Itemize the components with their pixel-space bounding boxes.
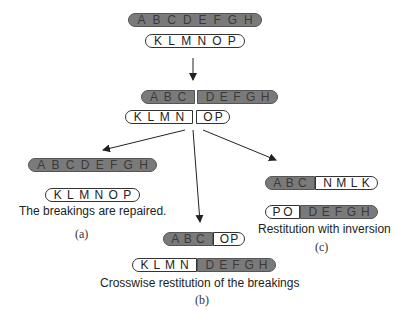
arrow-to-b-icon [193,130,200,222]
gene: A [171,233,179,245]
gene: K [54,189,62,201]
gene: G [246,91,255,103]
initial-chromosome-2: KLMNOP [145,34,245,48]
gene: K [154,35,162,47]
segment-klmn: KLMN [132,258,197,272]
gene: L [153,259,160,271]
gene: F [110,159,117,171]
segment-op: OP [213,232,245,246]
segment-defgh: DEFGH [197,90,278,104]
gene: B [184,233,192,245]
gene: E [322,206,330,218]
gene: G [347,206,356,218]
gene: P [228,35,236,47]
gene: H [261,91,270,103]
gene: B [164,91,172,103]
segment-po: PO [265,205,300,219]
gene: E [220,91,228,103]
gene: B [286,177,294,189]
segment-defgh: DEFGH [197,258,276,272]
gene: O [109,189,118,201]
gene: A [150,91,158,103]
outcome-a-chromosome-1: ABCDEFGH [28,158,157,172]
segment-abcdefgh: ABCDEFGH [128,13,262,27]
broken-chromosome-1: ABC DEFGH [141,90,278,104]
gene: H [139,159,148,171]
gene: K [140,259,148,271]
gene: P [123,189,131,201]
gene: G [228,14,237,26]
outcome-a-chromosome-2: KLMNOP [45,188,140,202]
outcome-c-chromosome-1: ABC NMLK [265,176,378,190]
gene: O [203,111,212,123]
arrow-to-a-icon [103,130,185,150]
gene: F [213,14,220,26]
arrow-to-c-icon [203,130,276,160]
gene: O [212,35,221,47]
gene: L [67,189,74,201]
gene: M [336,177,346,189]
gene: F [335,206,342,218]
outcome-b-label: (b) [195,293,209,308]
gene: O [283,206,292,218]
gene: C [196,233,205,245]
gene: D [205,259,214,271]
gene: P [272,206,280,218]
gene: D [308,206,317,218]
broken-chromosome-2: KLMN OP [125,110,230,124]
gene: D [183,14,192,26]
gene: F [232,259,239,271]
gene: D [81,159,90,171]
gene: P [215,111,223,123]
gene: O [220,233,229,245]
outcome-a-caption: The breakings are repaired. [19,204,166,218]
segment-klmnop: KLMNOP [45,188,140,202]
gene: B [51,159,59,171]
outcome-b-caption: Crosswise restitution of the breakings [100,276,299,290]
gene: H [244,14,253,26]
segment-klmn: KLMN [125,110,193,124]
gene: A [137,14,145,26]
gene: E [96,159,104,171]
gene: C [177,91,186,103]
segment-abcdefgh: ABCDEFGH [28,158,157,172]
gene: M [165,259,175,271]
gene: A [37,159,45,171]
gene: G [244,259,253,271]
segment-op: OP [196,110,230,124]
segment-nmlk: NMLK [315,176,378,190]
segment-defgh: DEFGH [300,205,378,219]
gene: L [148,111,155,123]
outcome-b-chromosome-1: ABC OP [163,232,245,246]
gene: C [167,14,176,26]
gene: E [219,259,227,271]
gene: L [168,35,175,47]
outcome-c-label: (c) [315,240,328,255]
gene: E [198,14,206,26]
gene: B [152,14,160,26]
initial-chromosome-1: ABCDEFGH [128,13,262,27]
gene: G [124,159,133,171]
segment-klmnop: KLMNOP [145,34,245,48]
gene: M [79,189,89,201]
gene: P [230,233,238,245]
outcome-c-chromosome-2: PO DEFGH [265,205,378,219]
segment-abc: ABC [141,90,195,104]
gene: F [233,91,240,103]
gene: M [181,35,191,47]
gene: H [361,206,370,218]
gene: D [206,91,215,103]
segment-abc: ABC [265,176,315,190]
outcome-c-caption: Restitution with inversion [258,222,391,236]
gene: N [197,35,206,47]
gene: C [66,159,75,171]
segment-abc: ABC [163,232,213,246]
gene: N [95,189,104,201]
gene: H [259,259,268,271]
gene: L [351,177,358,189]
outcome-a-label: (a) [75,227,88,242]
gene: A [273,177,281,189]
gene: M [160,111,170,123]
gene: C [298,177,307,189]
outcome-b-chromosome-2: KLMN DEFGH [132,258,276,272]
